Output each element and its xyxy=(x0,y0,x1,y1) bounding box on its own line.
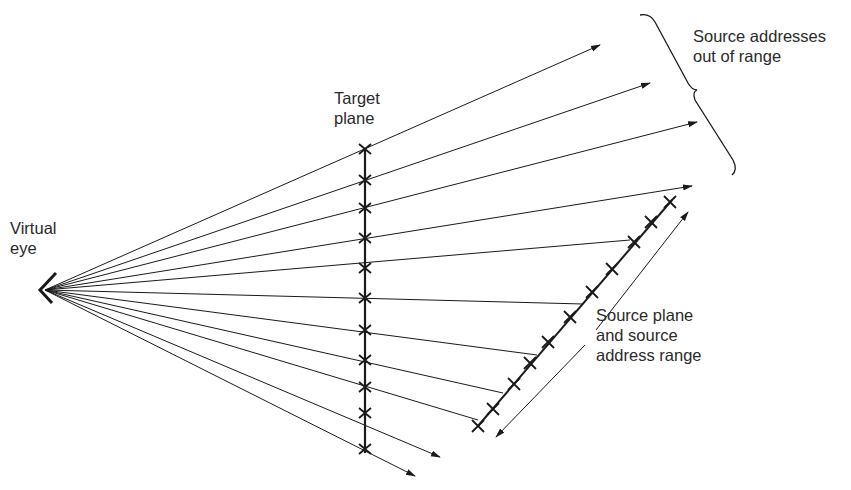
target-plane xyxy=(359,144,371,454)
out-of-range-label: Source addresses out of range xyxy=(693,26,826,66)
target-plane-label: Target plane xyxy=(334,88,380,128)
ray-below xyxy=(45,290,440,457)
virtual-eye-label: Virtual eye xyxy=(10,218,56,258)
diagram-canvas xyxy=(0,0,851,490)
ray-to-source xyxy=(45,290,583,304)
ray-out-of-range xyxy=(45,122,697,290)
ray-out-of-range xyxy=(45,186,692,290)
ray-to-source xyxy=(45,290,478,420)
source-plane-label: Source plane and source address range xyxy=(596,305,702,365)
ray-out-of-range xyxy=(45,45,600,290)
ray-to-source xyxy=(45,240,630,290)
